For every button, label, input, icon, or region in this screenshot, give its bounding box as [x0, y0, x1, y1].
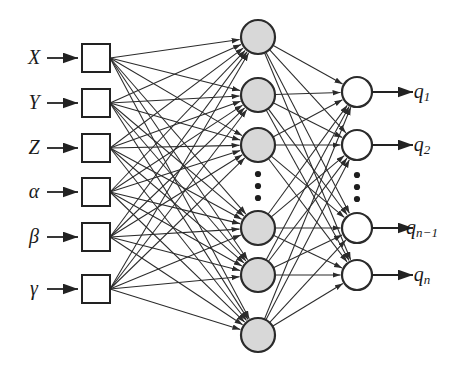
ellipsis-dot-icon — [255, 171, 261, 177]
output-layer-ellipsis-icon — [354, 172, 360, 202]
input-labels: XYZαβγ — [27, 46, 42, 300]
input-label-2: Y — [28, 91, 41, 113]
input-label-4: α — [29, 180, 40, 202]
connection-edge — [110, 158, 245, 289]
ellipsis-dot-icon — [255, 183, 261, 189]
hidden-node-3 — [241, 128, 275, 162]
connection-edge — [110, 148, 244, 263]
input-node-3 — [82, 134, 110, 162]
input-node-6 — [82, 275, 110, 303]
output-node-4 — [342, 260, 372, 290]
input-node-4 — [82, 178, 110, 206]
output-label-2: q2 — [414, 133, 431, 157]
hidden-to-output-edges — [264, 45, 350, 326]
connection-edge — [110, 40, 240, 58]
input-label-1: X — [27, 46, 41, 68]
network-canvas: XYZαβγ q1q2qn−1qn — [0, 0, 466, 379]
connection-edge — [275, 92, 341, 94]
output-node-3 — [342, 213, 372, 243]
output-node-2 — [342, 130, 372, 160]
connection-edge — [110, 192, 245, 322]
ellipsis-dot-icon — [255, 195, 261, 201]
connection-edge — [110, 103, 244, 216]
input-label-5: β — [28, 225, 39, 248]
hidden-layer-ellipsis-icon — [255, 171, 261, 201]
hidden-node-2 — [241, 78, 275, 112]
input-label-3: Z — [28, 136, 40, 158]
input-node-2 — [82, 89, 110, 117]
hidden-node-6 — [241, 318, 275, 352]
hidden-node-1 — [241, 20, 275, 54]
input-node-5 — [82, 223, 110, 251]
neural-network-diagram: XYZαβγ q1q2qn−1qn — [0, 0, 466, 379]
input-label-6: γ — [30, 277, 39, 300]
connection-edge — [268, 109, 347, 215]
input-node-1 — [82, 44, 110, 72]
connection-edge — [110, 52, 247, 237]
ellipsis-dot-icon — [354, 184, 360, 190]
connection-edge — [264, 107, 350, 319]
hidden-node-5 — [241, 258, 275, 292]
input-arrows — [47, 58, 78, 289]
output-nodes — [342, 77, 372, 290]
connection-edge — [268, 105, 347, 214]
output-labels: q1q2qn−1qn — [406, 80, 438, 287]
connection-edge — [270, 240, 346, 322]
connection-edge — [110, 289, 240, 330]
connection-edge — [273, 284, 343, 327]
output-node-1 — [342, 77, 372, 107]
output-label-3: qn−1 — [406, 216, 438, 240]
ellipsis-dot-icon — [354, 172, 360, 178]
input-to-hidden-edges — [110, 40, 249, 330]
output-label-1: q1 — [414, 80, 431, 104]
connection-edge — [110, 148, 247, 320]
hidden-node-4 — [241, 211, 275, 245]
ellipsis-dot-icon — [354, 196, 360, 202]
connection-edge — [110, 145, 240, 148]
output-arrows — [372, 92, 413, 275]
input-boxes — [82, 44, 110, 303]
connection-edge — [110, 45, 241, 103]
output-label-4: qn — [414, 263, 431, 287]
connection-edge — [265, 53, 351, 260]
